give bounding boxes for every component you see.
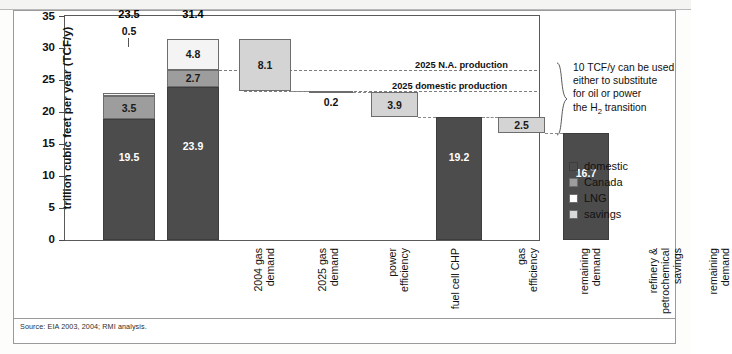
x-axis-label-gas-efficiency: gas efficiency [516, 248, 540, 354]
legend: domestic Canada LNG savings [569, 158, 675, 222]
bar-savings-gas-efficiency[interactable]: 3.9 [371, 92, 418, 117]
y-tick-label-15: 15 [21, 137, 55, 149]
y-tick-30 [59, 48, 65, 49]
bar-label-remaining-demand-1: 19.2 [449, 151, 469, 163]
connector-gas-efficiency-to-remaining [418, 117, 436, 118]
connector-fuelcell-to-gas-efficiency [353, 92, 371, 93]
legend-item-domestic[interactable]: domestic [569, 158, 675, 174]
legend-swatch-domestic-icon [569, 162, 578, 171]
y-tick-label-10: 10 [21, 169, 55, 181]
y-tick-5 [59, 208, 65, 209]
legend-label-lng: LNG [584, 192, 607, 204]
bar-label-power-efficiency: 8.1 [258, 59, 273, 71]
y-tick-label-5: 5 [21, 201, 55, 213]
connector-power-efficiency-to-fuelcell [291, 91, 309, 92]
bar-savings-refinery-petrochemical[interactable]: 2.5 [498, 117, 545, 133]
y-tick-label-25: 25 [21, 73, 55, 85]
x-axis-label-power-efficiency: power efficiency [387, 248, 411, 354]
bar-label-gas-efficiency: 3.9 [387, 99, 402, 111]
y-tick-25 [59, 80, 65, 81]
bar-segment-label-domestic-2025: 23.9 [183, 140, 203, 152]
source-note: Source: EIA 2003, 2004; RMI analysis. [20, 322, 147, 331]
legend-swatch-savings-icon [569, 210, 578, 219]
bar-segment-domestic-2004[interactable]: 19.5 [103, 119, 155, 240]
bar-segment-domestic-2025[interactable]: 23.9 [167, 87, 219, 240]
bar-segment-label-lng-2025: 4.8 [186, 48, 201, 60]
x-axis-label-refinery-petrochemical: refinery & petrochemical savings [648, 248, 683, 354]
legend-swatch-canada-icon [569, 178, 578, 187]
bar-total-label-2004-gas-demand: 23.5 [103, 8, 155, 20]
x-axis-label-fuel-cell-chp: fuel cell CHP [450, 248, 462, 354]
y-tick-label-20: 20 [21, 105, 55, 117]
y-tick-20 [59, 112, 65, 113]
bar-total-label-2025-gas-demand: 31.4 [167, 8, 219, 20]
annotation-line-1: 10 TCF/y can be used [573, 61, 683, 74]
y-tick-35 [59, 16, 65, 17]
x-axis-label-remaining-demand-1: remaining demand [579, 248, 603, 354]
annotation-brace [556, 62, 568, 136]
legend-label-domestic: domestic [584, 160, 628, 172]
legend-item-savings[interactable]: savings [569, 206, 675, 222]
bar-savings-power-efficiency[interactable]: 8.1 [239, 39, 291, 91]
bar-segment-label-canada-2025: 2.7 [186, 72, 201, 84]
y-tick-15 [59, 144, 65, 145]
bar-segment-label-lng-2004: 0.5 [105, 25, 153, 37]
y-tick-10 [59, 176, 65, 177]
bar-segment-canada-2025[interactable]: 2.7 [167, 70, 219, 87]
legend-label-canada: Canada [584, 176, 623, 188]
annotation-line-3: for oil or power [573, 87, 683, 100]
x-axis-label-2004-gas-demand: 2004 gas demand [253, 248, 277, 354]
connector-remaining-to-refinery [482, 117, 498, 118]
legend-label-savings: savings [584, 208, 621, 220]
bar-label-refinery-petrochemical: 2.5 [514, 119, 529, 131]
x-axis-label-2025-gas-demand: 2025 gas demand [317, 248, 341, 354]
reference-line-label-domestic-production: 2025 domestic production [390, 81, 509, 91]
y-tick-0 [59, 240, 65, 241]
bar-domestic-remaining-demand-1[interactable]: 19.2 [436, 117, 482, 240]
y-tick-label-35: 35 [21, 10, 55, 22]
annotation-subscript-2: 2 [598, 107, 602, 116]
bar-savings-fuel-cell-chp[interactable] [309, 91, 353, 93]
reference-line-label-na-production: 2025 N.A. production [413, 60, 510, 70]
bar-segment-label-domestic-2004: 19.5 [119, 151, 139, 163]
x-axis-label-remaining-demand-2: remaining demand [708, 248, 732, 354]
annotation-line-4: the H2 transition [573, 101, 683, 118]
y-tick-label-0: 0 [21, 233, 55, 245]
bar-segment-canada-2004[interactable]: 3.5 [103, 96, 155, 118]
source-divider [14, 318, 675, 319]
annotation-line-2: either to substitute [573, 74, 683, 87]
plot-area: trillion cubic feet per year (TCF/y) 0 5… [64, 15, 540, 241]
bar-segment-lng-2025[interactable]: 4.8 [167, 39, 219, 70]
legend-item-lng[interactable]: LNG [569, 190, 675, 206]
annotation-substitution-note: 10 TCF/y can be used either to substitut… [573, 61, 683, 118]
bar-segment-label-canada-2004: 3.5 [122, 102, 137, 114]
y-tick-label-30: 30 [21, 41, 55, 53]
leader-line-lng-2004 [128, 38, 129, 47]
legend-item-canada[interactable]: Canada [569, 174, 675, 190]
legend-swatch-lng-icon [569, 194, 578, 203]
bar-label-fuel-cell-chp: 0.2 [309, 96, 353, 108]
